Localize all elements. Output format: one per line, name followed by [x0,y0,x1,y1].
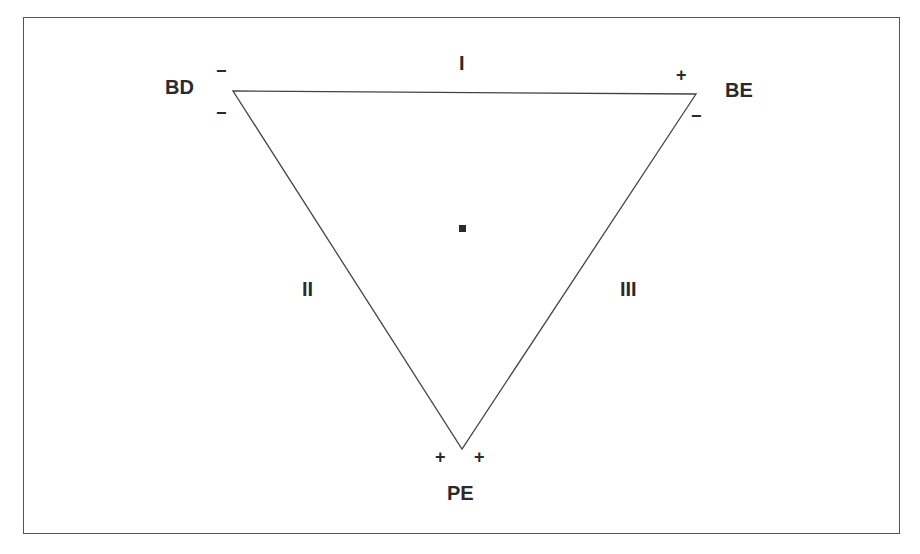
sign-pe-right: + [474,448,485,466]
sign-be-bottom: − [691,107,702,125]
sign-bd-bottom: − [216,104,227,122]
side-label-ii: II [302,279,313,299]
vertex-label-bd: BD [165,77,194,97]
center-point [459,225,466,232]
side-label-i: I [459,53,465,73]
sign-bd-top: − [216,62,227,80]
triangle-diagram [0,0,920,554]
sign-pe-left: + [435,448,446,466]
side-label-iii: III [620,279,637,299]
triangle [233,91,696,449]
sign-be-top: + [676,66,687,84]
vertex-label-be: BE [725,80,753,100]
vertex-label-pe: PE [447,483,474,503]
